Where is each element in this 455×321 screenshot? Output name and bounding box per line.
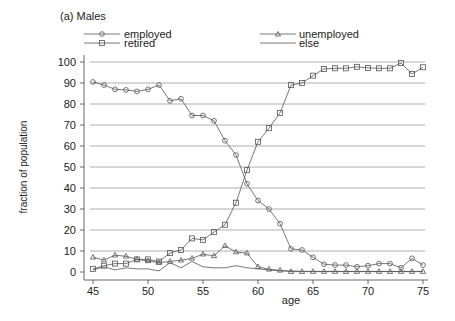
circle-marker-icon [102,83,107,88]
y-tick-label: 100 [58,56,76,68]
circle-marker-icon [146,87,151,92]
y-tick-label: 80 [64,98,76,110]
y-tick-label: 50 [64,161,76,173]
y-axis-label: fraction of population [18,121,29,214]
legend-else: else [260,37,319,49]
circle-marker-icon [245,181,250,186]
triangle-marker-icon [222,243,227,248]
circle-marker-icon [289,247,294,252]
circle-marker-icon [124,88,129,93]
circle-marker-icon [256,198,261,203]
circle-marker-icon [311,255,316,260]
y-tick-label: 20 [64,224,76,236]
square-marker-icon [421,65,426,70]
circle-marker-icon [91,80,96,85]
circle-marker-icon [388,261,393,266]
chart-title: (a) Males [60,10,106,22]
series-retired [91,61,426,272]
x-tick-label: 50 [142,285,154,297]
circle-marker-icon [322,262,327,267]
x-tick-label: 55 [197,285,209,297]
triangle-marker-icon [112,252,117,257]
legend-retired: retired [84,37,155,49]
y-tick-label: 10 [64,245,76,257]
circle-marker-icon [113,87,118,92]
x-tick-label: 45 [87,285,99,297]
circle-marker-icon [333,263,338,268]
circle-marker-icon [157,83,162,88]
x-axis-label: age [282,294,300,306]
circle-marker-icon [135,89,140,94]
x-tick-label: 60 [252,285,264,297]
circle-marker-icon [377,261,382,266]
circle-marker-icon [344,263,349,268]
y-tick-label: 30 [64,203,76,215]
circle-marker-icon [190,113,195,118]
legend-retired-label: retired [124,37,155,49]
circle-marker-icon [223,138,228,143]
legend: employed retired unemployed else [84,28,359,49]
circle-marker-icon [421,263,426,268]
circle-marker-icon [278,221,283,226]
circle-marker-icon [212,118,217,123]
y-tick-label: 0 [70,266,76,278]
y-tick-label: 90 [64,77,76,89]
legend-else-label: else [299,37,319,49]
gridlines [90,62,425,251]
circle-marker-icon [366,263,371,268]
x-tick-label: 70 [362,285,374,297]
triangle-marker-icon [233,249,238,254]
circle-marker-icon [410,256,415,261]
circle-marker-icon [267,207,272,212]
circle-marker-icon [201,113,206,118]
triangle-marker-icon [200,251,205,256]
circle-marker-icon [179,96,184,101]
chart: (a) Males employed retired unemployed el… [0,0,455,321]
circle-marker-icon [300,248,305,253]
triangle-marker-icon [90,255,95,260]
circle-marker-icon [168,98,173,103]
x-tick-label: 75 [417,285,429,297]
y-tick-label: 60 [64,140,76,152]
x-tick-label: 65 [307,285,319,297]
y-tick-label: 70 [64,119,76,131]
y-tick-label: 40 [64,182,76,194]
circle-marker-icon [234,153,239,158]
series-employed [91,80,426,271]
